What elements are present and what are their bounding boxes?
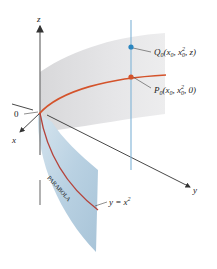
q0-label: Q0(x0, x02, z) (154, 46, 196, 58)
p0-label: P0(x0, x02, 0) (153, 84, 196, 96)
parabolic-cylinder-diagram: z 0 x y Q0(x0, x02, z) P0(x0, x02, 0) y … (0, 0, 217, 269)
origin-leader (24, 112, 38, 114)
x-axis (20, 113, 40, 132)
origin-label: 0 (14, 109, 19, 119)
y-axis-label: y (192, 185, 197, 195)
z-axis-label: z (36, 14, 41, 24)
p0-point (128, 74, 133, 79)
cylinder-surface (40, 33, 165, 130)
curve-equation-label: y = x2 (108, 196, 131, 207)
q0-point (128, 44, 133, 49)
x-axis-label: x (11, 135, 16, 145)
parabola-surface (38, 113, 98, 252)
